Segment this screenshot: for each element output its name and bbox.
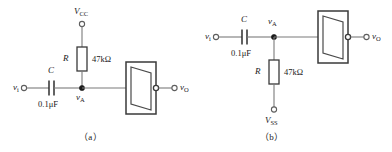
resistor-value-label-a: 47kΩ (92, 55, 111, 64)
resistor-ref-label-a: R (63, 54, 69, 63)
circuit-diagram-a: VCC R 47kΩ C 0.1μF vi vA vO （a） (0, 0, 196, 152)
circuit-a-schematic (0, 0, 196, 152)
capacitor-ref-label-a: C (48, 66, 54, 75)
amplifier-parallelogram-a (131, 67, 151, 110)
resistor-body-b (269, 60, 279, 84)
resistor-value-label-b: 47kΩ (284, 68, 303, 77)
node-label-b: vA (268, 17, 277, 26)
node-label-a: vA (76, 93, 85, 102)
caption-a: （a） (79, 133, 102, 142)
amplifier-parallelogram-b (323, 16, 343, 59)
amplifier-output-node-b (345, 34, 350, 39)
vss-terminal-b (271, 107, 276, 112)
resistor-body-a (77, 47, 87, 71)
capacitor-value-label-a: 0.1μF (38, 100, 58, 109)
input-terminal-b (213, 34, 218, 39)
output-label-b: vO (372, 32, 381, 41)
vcc-label-a: VCC (74, 7, 88, 16)
caption-b: （b） (260, 133, 283, 142)
amplifier-output-node-a (153, 85, 158, 90)
output-label-a: vO (180, 83, 189, 92)
circuit-figure: VCC R 47kΩ C 0.1μF vi vA vO （a） (0, 0, 392, 152)
circuit-diagram-b: vi C 0.1μF vA R 47kΩ VSS vO （b） (196, 0, 392, 152)
resistor-ref-label-b: R (255, 67, 261, 76)
capacitor-value-label-b: 0.1μF (231, 49, 251, 58)
vcc-terminal-a (79, 21, 84, 26)
vss-label-b: VSS (265, 116, 278, 125)
output-terminal-b (364, 34, 369, 39)
input-label-b: vi (205, 32, 211, 41)
input-label-a: vi (13, 83, 19, 92)
input-terminal-a (21, 85, 26, 90)
output-terminal-a (172, 85, 177, 90)
capacitor-ref-label-b: C (241, 15, 247, 24)
